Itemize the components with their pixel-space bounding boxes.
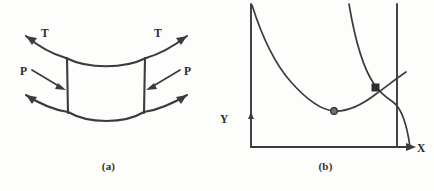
tension-lower-right-arrow xyxy=(144,95,187,112)
pressure-label-right: P xyxy=(184,66,191,78)
element-top-edge xyxy=(66,58,146,66)
pressure-label-left: P xyxy=(20,66,27,78)
element-right-face xyxy=(144,58,145,113)
x-axis-arrow xyxy=(406,143,416,151)
y-axis-label: Y xyxy=(220,114,228,126)
panel-b: Y X (b) xyxy=(217,0,434,191)
unconstrained-minimum-marker xyxy=(331,108,338,115)
tension-upper-right-arrow xyxy=(146,36,187,58)
pressure-left-arrow xyxy=(32,70,66,90)
tension-label-left: T xyxy=(41,28,49,40)
panel-a-caption: (a) xyxy=(0,160,217,172)
element-bottom-edge xyxy=(68,112,144,121)
y-axis-tick-arrow xyxy=(248,112,254,119)
pressure-right-arrow xyxy=(146,70,180,90)
constrained-optimum-marker xyxy=(372,84,379,91)
figure-container: T T P P (a) Y X (b) xyxy=(0,0,434,191)
element-left-face xyxy=(67,58,68,113)
panel-a: T T P P (a) xyxy=(0,0,217,191)
tension-label-right: T xyxy=(154,28,162,40)
tension-lower-left-arrow xyxy=(26,95,68,112)
x-axis-label: X xyxy=(417,143,425,155)
panel-b-caption: (b) xyxy=(217,160,434,172)
